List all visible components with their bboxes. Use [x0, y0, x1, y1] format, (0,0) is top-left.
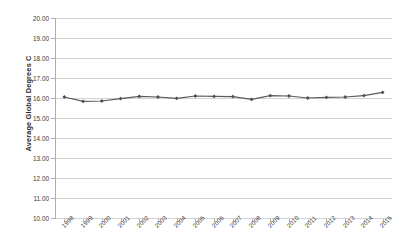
line-chart: Average Global Degrees C 20.0019.0018.00…: [0, 0, 413, 249]
y-tick-mark: [51, 38, 55, 39]
y-tick-label: 10.00: [5, 215, 49, 222]
y-axis-line: [55, 18, 56, 219]
y-tick-mark: [51, 78, 55, 79]
y-tick-mark: [51, 218, 55, 219]
y-tick-label: 15.00: [5, 115, 49, 122]
y-tick-mark: [51, 158, 55, 159]
y-tick-label: 13.00: [5, 155, 49, 162]
y-tick-label: 19.00: [5, 35, 49, 42]
plot-area: [55, 18, 392, 218]
gridline: [55, 78, 392, 79]
y-tick-label: 16.00: [5, 95, 49, 102]
y-tick-mark: [51, 138, 55, 139]
gridline: [55, 158, 392, 159]
y-tick-label: 17.00: [5, 75, 49, 82]
y-tick-label: 18.00: [5, 55, 49, 62]
gridline: [55, 18, 392, 19]
y-tick-mark: [51, 198, 55, 199]
y-tick-mark: [51, 18, 55, 19]
y-tick-mark: [51, 178, 55, 179]
y-tick-label: 12.00: [5, 175, 49, 182]
y-tick-label: 14.00: [5, 135, 49, 142]
y-axis-tick-labels: 20.0019.0018.0017.0016.0015.0014.0013.00…: [0, 0, 49, 249]
y-tick-label: 20.00: [5, 15, 49, 22]
gridline: [55, 58, 392, 59]
gridline: [55, 98, 392, 99]
y-tick-mark: [51, 98, 55, 99]
gridline: [55, 138, 392, 139]
y-tick-mark: [51, 118, 55, 119]
gridline: [55, 38, 392, 39]
y-tick-mark: [51, 58, 55, 59]
gridline: [55, 198, 392, 199]
gridline: [55, 118, 392, 119]
y-tick-label: 11.00: [5, 195, 49, 202]
gridline: [55, 178, 392, 179]
